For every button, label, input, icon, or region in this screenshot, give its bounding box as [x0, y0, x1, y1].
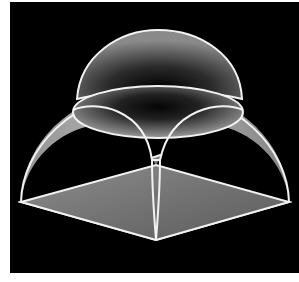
pendentive-dome-diagram	[0, 0, 299, 282]
drum-ring	[73, 86, 243, 138]
